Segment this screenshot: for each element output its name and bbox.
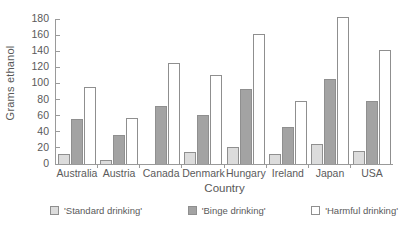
- bar-group: [351, 19, 393, 164]
- y-tick-label: 120: [31, 60, 49, 73]
- legend-swatch-standard: [50, 206, 59, 215]
- bar-binge: [155, 106, 167, 164]
- bar-group: [225, 19, 267, 164]
- x-tick-label: Hungary: [225, 167, 267, 181]
- y-axis-title-text: Grams ethanol: [4, 45, 16, 120]
- plot-area: 180160140120100806040200: [56, 19, 393, 164]
- x-tick-label: Canada: [140, 167, 182, 181]
- x-axis-tick-labels: AustraliaAustriaCanadaDenmarkHungaryIrel…: [56, 167, 393, 181]
- bar-harmful: [337, 17, 349, 164]
- legend-swatch-binge: [188, 206, 197, 215]
- y-tick-label: 0: [43, 157, 49, 170]
- x-tick-label: Australia: [56, 167, 98, 181]
- legend-swatch-harmful: [311, 206, 320, 215]
- legend-label: 'Harmful drinking': [325, 205, 398, 216]
- y-tick-label: 180: [31, 12, 49, 25]
- bar-harmful: [295, 101, 307, 164]
- y-tick-label: 140: [31, 44, 49, 57]
- y-tick-label: 100: [31, 76, 49, 89]
- bar-harmful: [126, 118, 138, 164]
- x-tick-label: Japan: [309, 167, 351, 181]
- legend-label: 'Binge drinking': [202, 205, 266, 216]
- bar-standard: [269, 154, 281, 164]
- bar-binge: [324, 79, 336, 164]
- bar-harmful: [168, 63, 180, 164]
- bar-binge: [71, 119, 83, 164]
- y-tick-label: 160: [31, 28, 49, 41]
- bar-standard: [353, 151, 365, 164]
- bar-binge: [113, 135, 125, 164]
- y-tick-label: 60: [37, 109, 49, 122]
- x-tick-label: Ireland: [267, 167, 309, 181]
- legend-item: 'Harmful drinking': [311, 205, 398, 216]
- x-axis-title: Country: [56, 182, 393, 194]
- bar-chart: Grams ethanol 180160140120100806040200 A…: [0, 0, 403, 231]
- legend-label: 'Standard drinking': [64, 205, 142, 216]
- legend-item: 'Binge drinking': [188, 205, 266, 216]
- bar-standard: [58, 154, 70, 164]
- bar-binge: [366, 101, 378, 164]
- y-tick-label: 80: [37, 93, 49, 106]
- bar-standard: [184, 152, 196, 164]
- bar-binge: [197, 115, 209, 164]
- bar-harmful: [253, 34, 265, 164]
- bar-groups: [56, 19, 393, 164]
- bar-group: [182, 19, 224, 164]
- bar-group: [309, 19, 351, 164]
- x-tick-label: Denmark: [182, 167, 225, 181]
- legend-item: 'Standard drinking': [50, 205, 142, 216]
- bar-harmful: [379, 50, 391, 164]
- bar-binge: [282, 127, 294, 164]
- x-tick-label: Austria: [98, 167, 140, 181]
- y-tick-label: 20: [37, 141, 49, 154]
- x-tick-label: USA: [351, 167, 393, 181]
- bar-standard: [227, 147, 239, 164]
- bar-standard: [100, 160, 112, 164]
- chart-legend: 'Standard drinking''Binge drinking''Harm…: [50, 205, 398, 216]
- bar-harmful: [210, 75, 222, 164]
- y-tick-label: 40: [37, 125, 49, 138]
- bar-binge: [240, 89, 252, 164]
- bar-harmful: [84, 87, 96, 164]
- bar-group: [267, 19, 309, 164]
- bar-standard: [311, 144, 323, 164]
- bar-group: [56, 19, 98, 164]
- bar-group: [140, 19, 182, 164]
- y-axis-title: Grams ethanol: [2, 0, 18, 165]
- bar-group: [98, 19, 140, 164]
